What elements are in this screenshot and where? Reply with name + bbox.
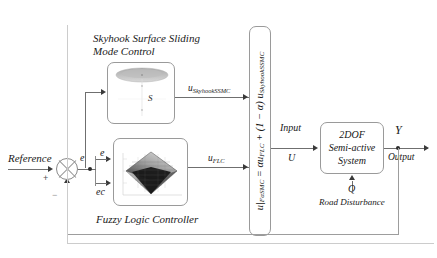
flc-input-ec-line — [96, 183, 107, 184]
u-skyhook-signal-label: uSkyhookSSMC — [188, 83, 230, 94]
error-bus-bar — [95, 156, 96, 186]
reference-label: Reference — [8, 152, 52, 165]
u-skyhook-sub: SkyhookSSMC — [193, 87, 231, 94]
plant-block[interactable]: 2DOF Semi-active System — [320, 122, 384, 174]
mixer-eq-sub1: FLC — [258, 144, 266, 157]
disturbance-symbol: Q — [348, 183, 355, 195]
outer-frame-left — [67, 25, 68, 243]
plant-input-line — [271, 148, 315, 149]
plant-line3: System — [321, 154, 383, 167]
sign-plus: + — [43, 173, 48, 183]
outer-frame-bottom — [67, 243, 434, 244]
flc-output-line — [188, 167, 249, 168]
ssmc-title-line2: Mode Control — [93, 45, 155, 58]
reference-line — [8, 169, 50, 170]
u-flc-sub: FLC — [213, 157, 225, 164]
ssmc-branch-vertical — [85, 92, 86, 168]
mixer-eq-eq: = αu — [254, 157, 265, 180]
ssmc-output-line — [175, 97, 249, 98]
plant-output-line — [384, 148, 428, 149]
flc-title: Fuzzy Logic Controller — [96, 213, 198, 226]
sliding-surface-svg — [112, 66, 172, 120]
ssmc-input-arrow — [101, 89, 106, 95]
fuzzy-surface-svg — [114, 139, 188, 206]
sliding-surface-label: S — [148, 93, 153, 103]
ssmc-block[interactable]: S — [107, 62, 175, 124]
plant-line1: 2DOF — [321, 129, 383, 142]
sliding-surface-plot: S — [108, 63, 174, 123]
control-block-diagram: Skyhook Surface Sliding Mode Control — [0, 0, 437, 258]
feedback-horizontal — [67, 234, 399, 235]
mixer-eq-mid: + (1 − α) u — [254, 93, 265, 143]
ssmc-title-line1: Skyhook Surface Sliding — [93, 32, 200, 45]
mixer-equation: u|FαSMC = αuFLC + (1 − α) uSkyhookSSMC — [254, 52, 267, 211]
ssmc-output-arrow — [243, 94, 248, 100]
flc-output-arrow — [243, 164, 248, 170]
flc-block[interactable] — [113, 138, 188, 206]
mixer-eq-sub2: SkyhookSSMC — [258, 52, 266, 94]
flc-input-ec-label: ec — [96, 186, 105, 198]
mixer-eq-lhs: u| — [254, 202, 265, 210]
input-symbol: U — [288, 152, 295, 164]
u-flc-signal-label: uFLC — [208, 153, 225, 164]
feedback-vertical-right — [398, 148, 399, 234]
error-line — [78, 169, 96, 170]
error-label: e — [80, 152, 84, 164]
input-label: Input — [280, 122, 301, 134]
disturbance-arrow — [349, 175, 355, 180]
flc-input-e-line — [96, 159, 107, 160]
plant-input-arrow — [313, 145, 318, 151]
mixer-eq-lhs-sub: FαSMC — [258, 180, 266, 202]
mixer-block[interactable]: u|FαSMC = αuFLC + (1 − α) uSkyhookSSMC — [249, 26, 271, 236]
plant-line2: Semi-active — [321, 142, 383, 155]
sign-minus: − — [52, 190, 57, 200]
ssmc-branch-horizontal — [85, 92, 102, 93]
plant-label: 2DOF Semi-active System — [321, 129, 383, 167]
reference-arrow — [48, 166, 53, 172]
error-tap-dot — [88, 167, 92, 171]
plant-output-arrow — [424, 145, 429, 151]
output-symbol: Y — [395, 124, 402, 138]
output-label: Output — [388, 152, 414, 163]
disturbance-label: Road Disturbance — [319, 197, 385, 207]
flc-input-e-label: e — [100, 147, 104, 159]
